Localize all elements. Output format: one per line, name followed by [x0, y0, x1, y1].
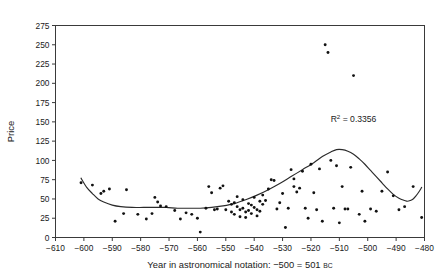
data-point	[327, 51, 330, 54]
data-point	[258, 200, 261, 203]
data-point	[222, 184, 225, 187]
data-point	[80, 181, 83, 184]
x-axis-title-text: Year in astronomical notation: −500 = 50…	[147, 259, 332, 270]
data-point	[91, 184, 94, 187]
data-point	[332, 207, 335, 210]
data-point	[253, 206, 256, 209]
y-tick-label: 250	[36, 40, 50, 50]
data-point	[312, 191, 315, 194]
data-point	[125, 188, 128, 191]
data-point	[315, 208, 318, 211]
data-point	[310, 163, 313, 166]
data-point	[403, 205, 406, 208]
y-tick-label: 150	[36, 117, 50, 127]
data-point	[102, 190, 105, 193]
data-point	[122, 212, 125, 215]
data-point	[239, 215, 242, 218]
data-point	[361, 190, 364, 193]
x-tick-label: −500	[358, 243, 377, 253]
y-tick-label: 0	[45, 233, 50, 243]
data-point	[275, 208, 278, 211]
data-point	[338, 221, 341, 224]
data-point	[301, 170, 304, 173]
data-point	[136, 213, 139, 216]
x-tick-label: −590	[103, 243, 122, 253]
data-point	[230, 211, 233, 214]
data-point	[173, 209, 176, 212]
data-point	[329, 159, 332, 162]
y-tick-label: 100	[36, 156, 50, 166]
data-point	[230, 203, 233, 206]
data-point	[369, 208, 372, 211]
data-point	[273, 179, 276, 182]
data-point	[210, 191, 213, 194]
data-point	[227, 200, 230, 203]
data-point	[114, 220, 117, 223]
data-point	[247, 202, 250, 205]
x-axis-title: Year in astronomical notation: −500 = 50…	[147, 259, 332, 270]
data-point	[292, 177, 295, 180]
data-point	[352, 74, 355, 77]
data-point	[380, 190, 383, 193]
y-tick-label: 225	[36, 59, 50, 69]
data-point	[185, 211, 188, 214]
data-point	[363, 220, 366, 223]
x-tick-label: −580	[131, 243, 150, 253]
data-point	[165, 205, 168, 208]
data-point	[204, 207, 207, 210]
data-point	[247, 209, 250, 212]
data-point	[298, 187, 301, 190]
chart-canvas: 0255075100125150175200225250275 −610−600…	[0, 0, 448, 280]
data-point	[151, 212, 154, 215]
data-point	[233, 201, 236, 204]
data-point	[253, 196, 256, 199]
data-point	[341, 185, 344, 188]
y-axis-title-text: Price	[5, 121, 16, 142]
data-point	[290, 168, 293, 171]
data-point	[284, 226, 287, 229]
data-point	[199, 231, 202, 234]
data-point	[358, 213, 361, 216]
data-point	[344, 208, 347, 211]
data-point	[304, 207, 307, 210]
data-point	[258, 210, 261, 213]
data-point	[216, 208, 219, 211]
data-point	[145, 218, 148, 221]
x-tick-label: −480	[415, 243, 434, 253]
data-point	[236, 195, 239, 198]
data-point	[412, 185, 415, 188]
data-point	[270, 178, 273, 181]
data-point	[335, 164, 338, 167]
data-point	[267, 187, 270, 190]
y-tick-label: 75	[40, 175, 50, 185]
data-point	[156, 201, 159, 204]
data-point	[241, 207, 244, 210]
x-axis-title-era: BC	[323, 262, 333, 269]
data-point	[196, 217, 199, 220]
data-point	[179, 218, 182, 221]
data-point	[256, 214, 259, 217]
data-point	[244, 211, 247, 214]
data-point	[224, 208, 227, 211]
x-tick-label: −570	[160, 243, 179, 253]
data-point	[261, 194, 264, 197]
r-equals: = 0.3356	[340, 114, 376, 124]
data-point	[321, 220, 324, 223]
data-point	[386, 171, 389, 174]
data-point	[159, 204, 162, 207]
x-tick-label: −610	[46, 243, 65, 253]
data-point	[241, 198, 244, 201]
data-point	[250, 212, 253, 215]
data-point	[392, 194, 395, 197]
y-tick-label: 175	[36, 98, 50, 108]
x-tick-label: −520	[302, 243, 321, 253]
data-point	[250, 204, 253, 207]
data-point	[236, 205, 239, 208]
x-tick-label: −510	[330, 243, 349, 253]
x-tick-label: −530	[273, 243, 292, 253]
data-point	[261, 203, 264, 206]
data-point	[420, 216, 423, 219]
data-point	[287, 207, 290, 210]
data-point	[256, 208, 259, 211]
data-point	[264, 199, 267, 202]
